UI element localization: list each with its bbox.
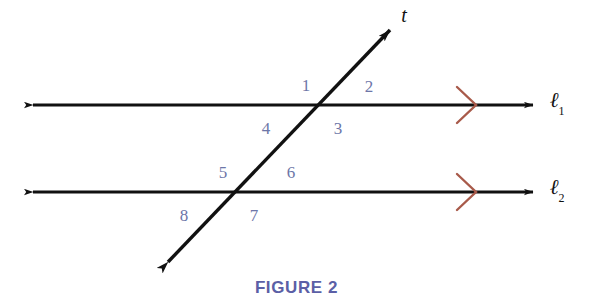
line-label-ell-2-subscript: 2 <box>558 191 564 205</box>
angle-label-5: 5 <box>219 164 228 181</box>
angle-label-8: 8 <box>180 207 189 224</box>
angle-label-6: 6 <box>287 164 296 181</box>
line-label-ell-2-glyph: ℓ <box>550 175 559 199</box>
line-label-ell-1-glyph: ℓ <box>550 88 559 112</box>
transversal-t-segment <box>168 30 390 262</box>
line-label-ell-1-subscript: 1 <box>558 104 564 118</box>
angle-label-7: 7 <box>250 207 259 224</box>
angle-label-2: 2 <box>365 78 374 95</box>
figure-caption: FIGURE 2 <box>0 278 593 298</box>
line-label-ell-1: ℓ1 <box>550 90 565 114</box>
geometry-figure: 1 2 3 4 5 6 7 8 ℓ1 ℓ2 t FIGURE 2 <box>0 0 593 307</box>
angle-label-3: 3 <box>334 120 343 137</box>
line-label-ell-2: ℓ2 <box>550 177 565 201</box>
transversal-label-t: t <box>401 5 407 25</box>
figure-drawing-canvas <box>0 0 593 307</box>
angle-label-4: 4 <box>262 120 271 137</box>
angle-label-1: 1 <box>302 77 311 94</box>
